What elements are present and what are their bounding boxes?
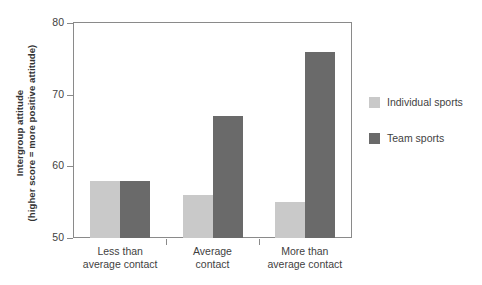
y-axis-title: Intergroup attitude (higher score = more… <box>6 18 46 248</box>
bars-layer <box>74 23 351 238</box>
y-axis-tick <box>67 238 73 239</box>
x-axis-category-label-1: Less thanaverage contact <box>74 245 166 272</box>
bar-individual-sports-group-1 <box>90 181 120 238</box>
y-axis-title-line-2: (higher score = more positive attitude) <box>26 45 38 222</box>
x-axis-label-line: Average <box>166 245 258 258</box>
legend-label: Individual sports <box>387 96 463 108</box>
bar-team-sports-group-2 <box>213 116 243 238</box>
x-axis-label-line: More than <box>259 245 351 258</box>
legend-label: Team sports <box>387 132 444 144</box>
bar-individual-sports-group-3 <box>275 202 305 238</box>
x-axis-label-line: average contact <box>74 258 166 271</box>
bar-team-sports-group-3 <box>305 52 335 238</box>
y-axis-tick <box>67 166 73 167</box>
bar-team-sports-group-1 <box>120 181 150 238</box>
y-axis-title-line-1: Intergroup attitude <box>14 90 26 176</box>
legend-item-individual-sports: Individual sports <box>369 96 481 108</box>
y-axis-tick-label: 50 <box>40 231 64 243</box>
x-axis-category-label-3: More thanaverage contact <box>259 245 351 272</box>
chart-legend: Individual sportsTeam sports <box>369 96 481 168</box>
y-axis-tick-label: 60 <box>40 159 64 171</box>
y-axis-tick-label: 70 <box>40 88 64 100</box>
y-axis-tick-label: 80 <box>40 16 64 28</box>
x-axis-label-line: average contact <box>259 258 351 271</box>
legend-swatch-icon <box>369 133 380 144</box>
y-axis-tick <box>67 23 73 24</box>
x-axis-label-line: contact <box>166 258 258 271</box>
bar-individual-sports-group-2 <box>183 195 213 238</box>
legend-swatch-icon <box>369 97 380 108</box>
x-axis-category-label-2: Averagecontact <box>166 245 258 272</box>
y-axis-tick <box>67 95 73 96</box>
x-axis-label-line: Less than <box>74 245 166 258</box>
legend-item-team-sports: Team sports <box>369 132 481 144</box>
